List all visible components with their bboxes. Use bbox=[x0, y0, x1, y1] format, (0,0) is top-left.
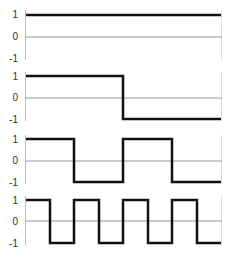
panel-2: 1 0 -1 bbox=[9, 71, 222, 125]
panel-3: 1 0 -1 bbox=[9, 134, 222, 188]
y-tick-1: 1 bbox=[12, 195, 18, 206]
y-tick-neg1: -1 bbox=[9, 53, 18, 64]
y-tick-neg1: -1 bbox=[9, 238, 18, 249]
y-tick-1: 1 bbox=[12, 9, 18, 20]
panel-1: 1 0 -1 bbox=[9, 9, 222, 64]
y-tick-0: 0 bbox=[12, 92, 18, 103]
y-tick-0: 0 bbox=[12, 31, 18, 42]
y-tick-neg1: -1 bbox=[9, 114, 18, 125]
y-tick-0: 0 bbox=[12, 155, 18, 166]
y-tick-neg1: -1 bbox=[9, 177, 18, 188]
panel-4: 1 0 -1 bbox=[9, 195, 222, 249]
square-wave-charts: 1 0 -1 1 0 -1 1 0 -1 1 0 -1 bbox=[0, 0, 234, 258]
y-tick-1: 1 bbox=[12, 134, 18, 145]
y-tick-1: 1 bbox=[12, 71, 18, 82]
y-tick-0: 0 bbox=[12, 216, 18, 227]
